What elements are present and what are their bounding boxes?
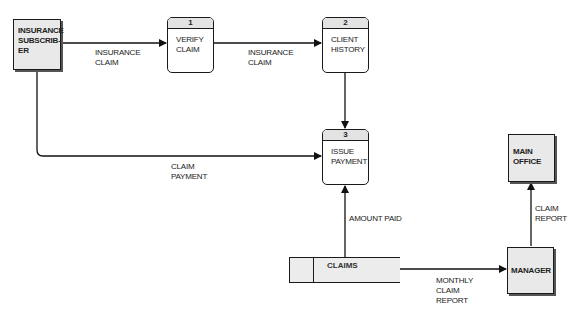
flow-label-insurance-claim-1: INSURANCE CLAIM (95, 48, 140, 68)
process-verify-claim: 1 VERIFY CLAIM (167, 17, 214, 73)
flow-label-amount-paid: AMOUNT PAID (349, 214, 402, 224)
process-issue-payment: 3 ISSUE PAYMENT (322, 129, 369, 185)
entity-label: INSURANCE SUBSCRIB- ER (18, 26, 64, 55)
process-name: VERIFY CLAIM (168, 29, 213, 55)
flow-label-monthly-claim-report: MONTHLY CLAIM REPORT (436, 276, 473, 306)
data-store-id-cell (290, 258, 314, 282)
entity-main-office: MAIN OFFICE (508, 134, 555, 182)
entity-manager: MANAGER (507, 247, 554, 294)
process-name: CLIENT HISTORY (323, 29, 368, 55)
process-client-history: 2 CLIENT HISTORY (322, 17, 369, 73)
data-store-claims: CLAIMS (289, 257, 400, 283)
entity-label: MANAGER (511, 266, 551, 275)
process-number: 3 (323, 130, 368, 141)
flow-label-claim-payment: CLAIM PAYMENT (171, 162, 207, 182)
process-name: ISSUE PAYMENT (323, 141, 368, 167)
flow-arrow-claim-payment (37, 70, 321, 156)
data-store-name: CLAIMS (327, 261, 358, 270)
process-number: 1 (168, 18, 213, 29)
flow-label-claim-report: CLAIM REPORT (535, 204, 567, 224)
entity-label: MAIN OFFICE (513, 147, 541, 166)
process-number: 2 (323, 18, 368, 29)
entity-insurance-subscriber: INSURANCE SUBSCRIB- ER (13, 19, 61, 70)
flow-label-insurance-claim-2: INSURANCE CLAIM (248, 48, 293, 68)
